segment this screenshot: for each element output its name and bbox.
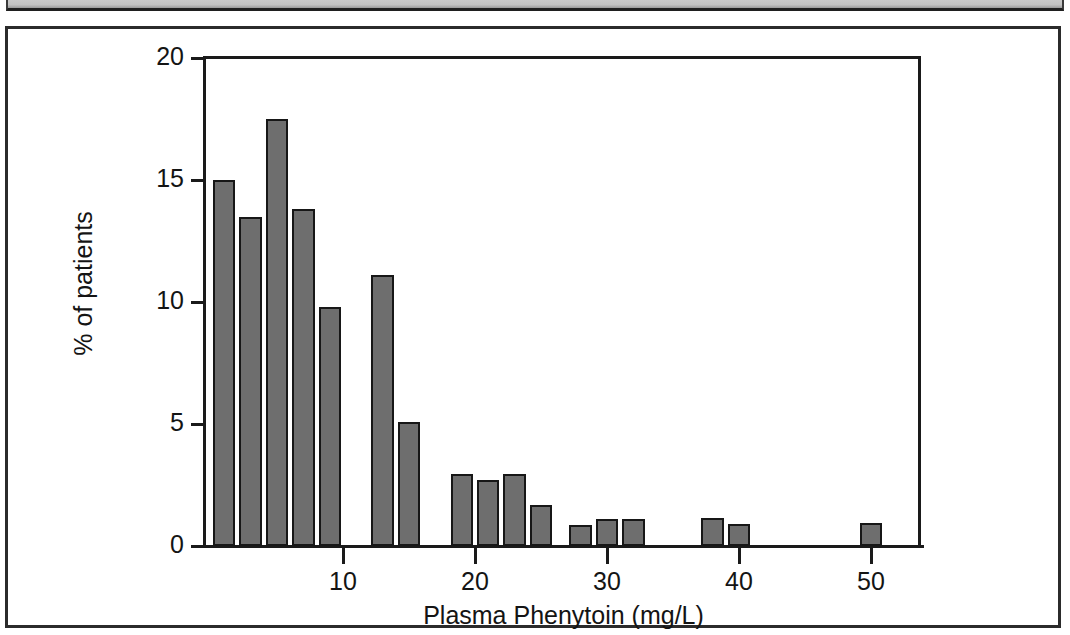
- histogram-bar: [701, 518, 723, 546]
- histogram-bar: [371, 275, 393, 546]
- histogram-bar: [596, 519, 618, 546]
- histogram-bar: [451, 474, 473, 546]
- histogram-bar: [530, 505, 552, 546]
- histogram-bar: [622, 519, 644, 546]
- histogram-bar: [398, 422, 420, 546]
- histogram-bar: [503, 474, 525, 546]
- histogram-bar: [213, 180, 235, 546]
- histogram-chart: 05101520 % of patients 1020304050 Plasma…: [8, 29, 1064, 631]
- figure-frame: 05101520 % of patients 1020304050 Plasma…: [5, 26, 1061, 628]
- histogram-bar: [319, 307, 341, 546]
- histogram-bar: [477, 480, 499, 546]
- histogram-bar: [860, 523, 882, 546]
- histogram-bar: [292, 209, 314, 546]
- histogram-bar: [728, 524, 750, 546]
- histogram-bar: [239, 217, 261, 546]
- histogram-bar: [569, 525, 591, 546]
- histogram-bar: [266, 119, 288, 546]
- scan-top-band: [6, 0, 1064, 11]
- bar-series: [8, 29, 1064, 631]
